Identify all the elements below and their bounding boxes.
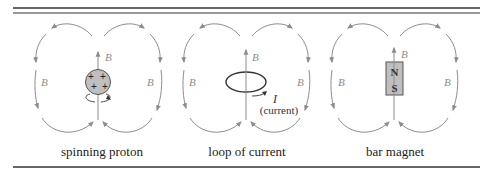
field-label-left: B — [189, 76, 196, 88]
field-label-left: B — [338, 76, 345, 88]
caption-loop-of-current: loop of current — [208, 144, 286, 159]
panel-bar-magnet: N S B B B bar magnet — [331, 24, 458, 159]
caption-bar-magnet: bar magnet — [366, 144, 425, 159]
panel-spinning-proton: + + + + B B B spinning proton — [35, 24, 162, 159]
field-label-axis: B — [401, 48, 408, 60]
charge-plus: + — [91, 81, 97, 92]
field-label-left: B — [41, 76, 48, 88]
field-label-right: B — [297, 76, 304, 88]
current-label: (current) — [260, 104, 299, 117]
charge-plus: + — [102, 81, 108, 92]
field-label-axis: B — [105, 51, 112, 63]
current-arrowhead-icon — [262, 91, 267, 96]
field-label-right: B — [444, 76, 451, 88]
north-pole-label: N — [391, 66, 399, 78]
south-pole-label: S — [391, 82, 397, 94]
current-direction-arrow — [252, 93, 265, 96]
field-label-right: B — [147, 76, 154, 88]
caption-spinning-proton: spinning proton — [61, 144, 143, 159]
field-label-axis: B — [252, 51, 259, 63]
panel-loop-of-current: B B B I (current) loop of current — [183, 24, 310, 159]
magnetic-dipole-figure: + + + + B B B spinning proton — [0, 0, 493, 172]
